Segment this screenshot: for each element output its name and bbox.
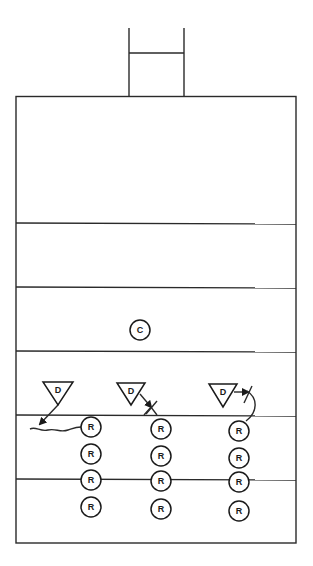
defender-1-path — [30, 405, 81, 431]
runner-marker: R — [151, 471, 171, 491]
defender-label: D — [55, 385, 62, 395]
runners: RRRRRRRRRRRR — [81, 417, 249, 521]
yard-line — [16, 287, 296, 288]
runner-marker: R — [151, 419, 171, 439]
defender-2-path — [140, 394, 157, 415]
runner-marker: R — [81, 497, 101, 517]
runner-label: R — [88, 475, 95, 485]
yard-line — [16, 351, 296, 352]
runner-marker: R — [229, 421, 249, 441]
defender-marker: D — [209, 384, 237, 407]
runner-label: R — [236, 453, 243, 463]
runner-marker: R — [229, 472, 249, 492]
goalpost — [129, 28, 184, 97]
runner-marker: R — [151, 446, 171, 466]
drill-diagram: C DDD RRRRRRRRRRRR — [0, 0, 313, 566]
defender-marker: D — [43, 382, 73, 405]
runner-label: R — [236, 506, 243, 516]
runner-marker: R — [229, 501, 249, 521]
yard-lines — [16, 223, 296, 480]
defender-label: D — [220, 387, 227, 397]
runner-marker: R — [229, 448, 249, 468]
defender-label: D — [128, 386, 135, 396]
runner-label: R — [158, 451, 165, 461]
runner-label: R — [158, 476, 165, 486]
runner-label: R — [236, 477, 243, 487]
runner-marker: R — [81, 417, 101, 437]
runner-label: R — [158, 504, 165, 514]
runner-marker: R — [81, 470, 101, 490]
runner-label: R — [88, 449, 95, 459]
coach-label: C — [137, 325, 144, 335]
runner-label: R — [158, 424, 165, 434]
coach-marker: C — [130, 320, 150, 340]
runner-marker: R — [151, 499, 171, 519]
yard-line — [16, 223, 296, 224]
runner-label: R — [236, 426, 243, 436]
runner-label: R — [88, 502, 95, 512]
runner-label: R — [88, 422, 95, 432]
runner-marker: R — [81, 444, 101, 464]
yard-line — [16, 415, 296, 416]
